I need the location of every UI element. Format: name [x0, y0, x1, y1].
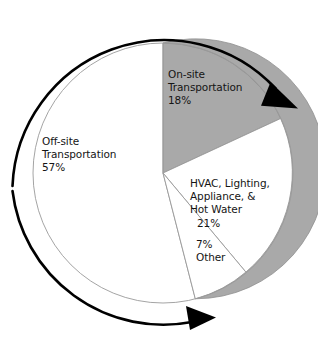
slice-label-line: HVAC, Lighting, [190, 177, 270, 190]
slice-label-other: 7% Other [196, 238, 225, 264]
clockwise-arrow-arc-bottom [13, 191, 193, 325]
slice-value: 7% [196, 238, 225, 251]
slice-label-hvac-lighting-appliance-hot-water: HVAC, Lighting, Appliance, & Hot Water 2… [190, 177, 270, 230]
slice-label-line: Hot Water [190, 203, 270, 216]
slice-label-on-site-transportation: On-site Transportation 18% [168, 68, 242, 108]
slice-label-line: On-site [168, 68, 242, 81]
pie-chart-figure: On-site Transportation 18% Off-site Tran… [0, 0, 318, 339]
slice-label-line: Appliance, & [190, 190, 270, 203]
slice-value: 57% [42, 161, 116, 174]
slice-value: 21% [190, 217, 270, 230]
slice-value: 18% [168, 94, 242, 107]
slice-label-line: Off-site [42, 135, 116, 148]
clockwise-arrow-head-bottom [186, 306, 216, 330]
slice-label-line: Transportation [42, 148, 116, 161]
slice-label-line: Transportation [168, 81, 242, 94]
slice-label-line: Other [196, 251, 225, 264]
slice-label-off-site-transportation: Off-site Transportation 57% [42, 135, 116, 175]
